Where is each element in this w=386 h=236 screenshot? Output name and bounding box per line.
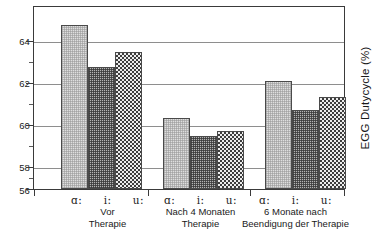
category-label-a: ɑ:: [71, 194, 82, 206]
y-axis-tick-major-56: [26, 189, 33, 190]
plot-area: [33, 6, 345, 190]
bar-nach-4-monaten-a: [163, 118, 190, 189]
category-label-a: ɑ:: [259, 194, 270, 206]
bar-nach-4-monaten-u: [217, 131, 244, 189]
y-axis-tick-major-64: [26, 41, 33, 42]
group-3-caption-line1: 6 Monate nach: [213, 206, 378, 218]
category-label-i: i:: [292, 194, 300, 206]
group-3-caption-line2: Beendigung der Therapie: [213, 218, 378, 230]
category-label-i: i:: [197, 194, 205, 206]
y-axis-tick-major-60: [26, 125, 33, 126]
bar-nach-4-monaten-i: [190, 136, 217, 189]
group-label-6-monate-nach: ɑ: i: u: 6 Monate nach Beendigung der Th…: [213, 194, 378, 229]
y-axis-tick-major-62: [26, 83, 33, 84]
category-label-a: ɑ:: [164, 194, 175, 206]
bar-6-monate-nach-a: [265, 81, 292, 189]
category-label-u: u:: [321, 194, 332, 206]
bar-vor-therapie-a: [61, 25, 88, 189]
y-axis-tick-major-58: [26, 167, 33, 168]
bar-6-monate-nach-u: [319, 97, 346, 189]
bar-vor-therapie-i: [88, 67, 115, 189]
chart-container: 64 62 60 58 56 ɑ:: [0, 0, 386, 236]
category-label-i: i:: [104, 194, 112, 206]
y-axis-title: EGG Dutycycle (%): [350, 6, 380, 190]
bar-6-monate-nach-i: [292, 110, 319, 189]
bar-vor-therapie-u: [115, 52, 142, 189]
group-3-category-row: ɑ: i: u:: [213, 194, 378, 206]
